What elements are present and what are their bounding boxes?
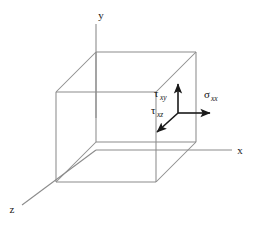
tau-xy-subscript: xy <box>159 93 167 102</box>
sigma-xx-label: σ xx <box>204 88 218 103</box>
tau-xz-subscript: xz <box>156 110 163 119</box>
cube-edge-depth-bottom-left <box>56 142 96 182</box>
coordinate-axes: y x z <box>10 9 244 215</box>
stress-labels: σ xx τ xy τ xz <box>151 87 218 119</box>
cube-edge-depth-top-right <box>156 52 196 92</box>
stress-element-figure: y x z <box>0 0 258 230</box>
cube-back-face <box>96 52 196 142</box>
tau-xz-label: τ xz <box>151 104 163 119</box>
stress-element-canvas: y x z <box>0 0 258 230</box>
sigma-xx-subscript: xx <box>210 94 218 103</box>
cube-edge-depth-bottom-right <box>156 142 196 182</box>
cube-depth-edges <box>56 52 196 182</box>
z-axis-line <box>22 150 96 205</box>
sigma-xx-symbol: σ <box>204 88 210 100</box>
tau-xz-symbol: τ <box>151 104 156 116</box>
z-axis-label: z <box>10 203 15 215</box>
x-axis-label: x <box>237 144 243 156</box>
cube-edge-depth-top-left <box>56 52 96 92</box>
stress-arrows <box>157 84 210 132</box>
tau-xy-symbol: τ <box>154 87 159 99</box>
y-axis-label: y <box>98 9 104 21</box>
stress-cube <box>56 52 196 182</box>
